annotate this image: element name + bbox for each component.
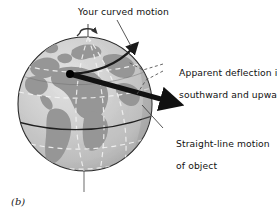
launch-point-dot xyxy=(66,70,74,78)
curved-motion-leader-line xyxy=(117,20,131,46)
label-apparent-deflection-line2: southward and upward xyxy=(179,89,277,100)
label-your-curved-motion: Your curved motion xyxy=(78,6,169,17)
earth-rotation-arrow-icon xyxy=(77,29,95,36)
label-straight-line-motion-line2: of object xyxy=(176,160,217,171)
label-straight-line-motion-line1: Straight-line motion xyxy=(176,138,270,149)
label-apparent-deflection-line1: Apparent deflection is xyxy=(179,67,277,78)
globe-sphere xyxy=(18,30,170,175)
label-apparent-deflection: Apparent deflection is southward and upw… xyxy=(167,56,277,111)
label-straight-line-motion: Straight-line motion of object xyxy=(164,127,270,182)
figure-caption: (b) xyxy=(11,196,25,207)
coriolis-effect-figure: Your curved motion Apparent deflection i… xyxy=(0,0,277,220)
